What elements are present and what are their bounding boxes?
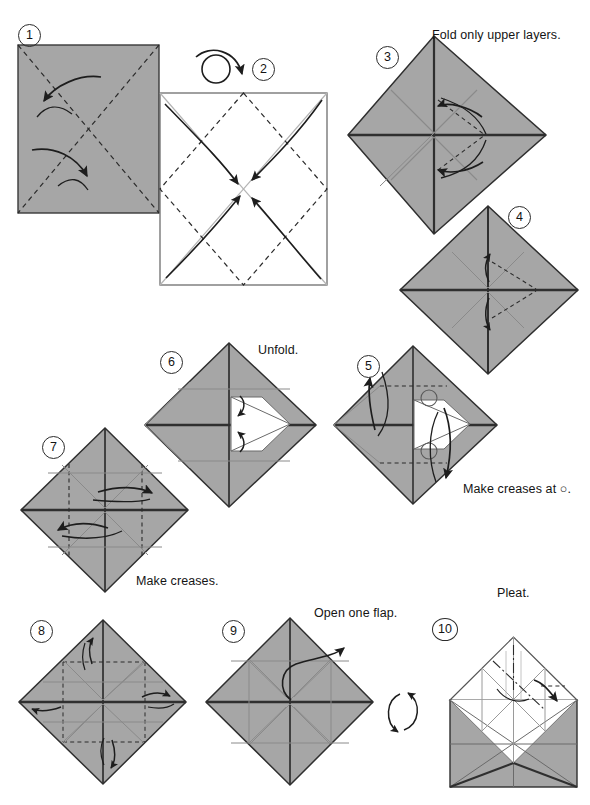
step-number-1: 1 (18, 24, 41, 47)
step-2-figure (160, 93, 327, 285)
step-number-4: 4 (508, 206, 531, 229)
step-number-9: 9 (222, 620, 245, 643)
step-number-2: 2 (252, 58, 275, 81)
step-3-figure (348, 36, 546, 234)
caption-make-creases: Make creases. (136, 574, 219, 588)
step-number-7: 7 (42, 436, 65, 459)
step-number-10: 10 (432, 618, 458, 641)
step-1-figure (18, 45, 159, 213)
origami-diagram-canvas (0, 0, 590, 805)
step-number-3: 3 (376, 46, 399, 69)
step-10-figure (450, 637, 577, 787)
step-number-6: 6 (160, 351, 183, 374)
rotate-symbol (388, 693, 417, 732)
caption-unfold: Unfold. (258, 343, 298, 357)
turn-over-symbol (196, 50, 242, 83)
caption-open-one-flap: Open one flap. (314, 606, 397, 620)
step-8-figure (19, 620, 186, 784)
step-9-figure (206, 618, 373, 785)
caption-fold-upper-layers: Fold only upper layers. (432, 28, 561, 42)
caption-pleat: Pleat. (497, 586, 530, 600)
diagram-page: 1 2 3 4 5 6 7 8 9 10 Fold only upper lay… (0, 0, 590, 805)
caption-make-creases-at-circle: Make creases at ○. (463, 482, 571, 496)
step-number-8: 8 (30, 620, 53, 643)
step-4-figure (400, 206, 578, 374)
step-number-5: 5 (357, 355, 380, 378)
